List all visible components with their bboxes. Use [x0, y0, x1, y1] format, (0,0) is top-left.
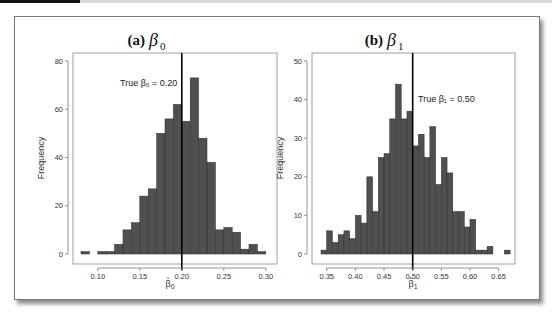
histogram-bar [157, 133, 165, 254]
histogram-bar [453, 212, 459, 254]
x-tick-label: 0.40 [348, 272, 363, 281]
panel-b-ylabel: Frequency [275, 136, 285, 179]
histogram-bar [140, 196, 148, 254]
histogram-bar [418, 134, 424, 254]
histogram-bar [131, 223, 139, 254]
histogram-bar [232, 232, 240, 254]
histogram-bar [424, 158, 430, 255]
histogram-bar [182, 121, 190, 254]
histogram-bar [401, 119, 407, 254]
histogram-bar [148, 189, 156, 254]
histogram-figure: (a) β 0 020406080 0.100.150.200.250.30 F… [0, 0, 552, 315]
histogram-bar [384, 154, 390, 254]
histogram-bar [464, 227, 470, 254]
panel-a-xlabel-hat: ^ [167, 276, 170, 282]
panel-a-title-sub: 0 [160, 40, 166, 52]
histogram-bar [367, 177, 373, 254]
histogram-bar [98, 252, 106, 254]
histogram-bar [459, 212, 465, 254]
panel-b-y-axis: 01020304050 [294, 57, 307, 259]
histogram-bar [390, 119, 396, 254]
histogram-bar [123, 230, 131, 254]
y-tick-label: 20 [55, 201, 63, 210]
histogram-bar [361, 223, 367, 254]
histogram-bar [470, 219, 476, 254]
histogram-bar [344, 231, 350, 254]
panel-b-xlabel-hat: ^ [410, 276, 413, 282]
x-tick-label: 0.55 [434, 272, 449, 281]
panel-a-beta0-histogram: (a) β 0 020406080 0.100.150.200.250.30 F… [36, 30, 277, 290]
histogram-bar [395, 84, 401, 254]
histogram-bar [355, 215, 361, 254]
histogram-bar [199, 138, 207, 254]
histogram-bar [257, 252, 265, 254]
histogram-bar [481, 250, 487, 254]
histogram-bar [338, 235, 344, 254]
x-tick-label: 0.65 [491, 272, 506, 281]
panel-a-ylabel: Frequency [36, 136, 46, 179]
y-tick-label: 10 [294, 211, 302, 220]
histogram-bar [321, 250, 327, 254]
histogram-bar [106, 252, 114, 254]
histogram-bar [407, 111, 413, 254]
histogram-bar [249, 244, 257, 254]
panel-a-title-prefix: (a) [128, 32, 146, 49]
histogram-bar [115, 244, 123, 254]
panel-b-bars [321, 53, 510, 270]
histogram-bar [447, 173, 453, 254]
y-tick-label: 20 [294, 172, 302, 181]
histogram-bar [207, 162, 215, 254]
panel-b-title-prefix: (b) [365, 32, 383, 49]
panel-b-title-symbol: β [386, 30, 396, 50]
panel-b-annotation: True β₁ = 0.50 [418, 94, 475, 104]
y-tick-label: 50 [294, 57, 302, 66]
y-tick-label: 40 [294, 95, 302, 104]
histogram-bar [173, 104, 181, 254]
histogram-bar [378, 158, 384, 255]
histogram-bar [165, 119, 173, 254]
histogram-bar [332, 242, 338, 254]
histogram-bar [224, 227, 232, 254]
histogram-bar [413, 146, 419, 254]
histogram-bar [190, 78, 198, 254]
histogram-bar [327, 231, 333, 254]
panel-b-title-sub: 1 [398, 40, 404, 52]
x-tick-label: 0.15 [132, 272, 147, 281]
panel-a-x-axis: 0.100.150.200.250.30 [90, 268, 273, 281]
x-tick-label: 0.20 [174, 272, 189, 281]
x-tick-label: 0.30 [258, 272, 273, 281]
histogram-bar [436, 185, 442, 254]
histogram-bar [350, 239, 356, 254]
y-tick-label: 30 [294, 134, 302, 143]
histogram-bar [504, 250, 510, 254]
panel-a-title-symbol: β [148, 30, 158, 50]
x-tick-label: 0.25 [216, 272, 231, 281]
panel-a-y-axis: 020406080 [55, 57, 68, 259]
histogram-bar [476, 250, 482, 254]
histogram-bar [215, 230, 223, 254]
panel-a-annotation: True β₀ = 0.20 [120, 78, 177, 88]
histogram-bar [487, 246, 493, 254]
x-tick-label: 0.35 [319, 272, 334, 281]
y-tick-label: 0 [298, 250, 302, 259]
x-tick-label: 0.10 [90, 272, 105, 281]
y-tick-label: 60 [55, 105, 63, 114]
y-tick-label: 0 [59, 250, 63, 259]
y-tick-label: 80 [55, 57, 63, 66]
histogram-bar [441, 158, 447, 255]
histogram-bar [373, 212, 379, 254]
x-tick-label: 0.45 [377, 272, 392, 281]
histogram-bar [430, 127, 436, 254]
panel-b-beta1-histogram: (b) β 1 01020304050 0.350.400.450.500.55… [275, 30, 515, 290]
histogram-bar [81, 252, 89, 254]
histogram-bar [241, 249, 249, 254]
y-tick-label: 40 [55, 153, 63, 162]
x-tick-label: 0.60 [463, 272, 478, 281]
